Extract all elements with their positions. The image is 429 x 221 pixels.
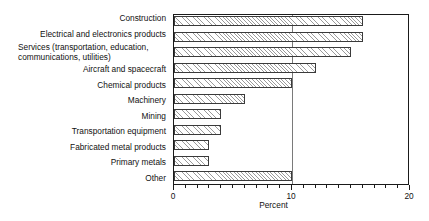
x-tick-minor: [326, 185, 327, 188]
x-tick-minor: [385, 185, 386, 188]
category-label-services: Services (transportation, education, com…: [18, 43, 168, 62]
x-tick-minor: [244, 185, 245, 188]
bar-mining: [174, 109, 221, 119]
bar-construction: [174, 16, 363, 26]
x-tick-major: [409, 185, 410, 190]
category-label-other: Other: [145, 174, 166, 184]
bar-other: [174, 171, 292, 181]
x-tick-major: [173, 185, 174, 190]
category-label-chemical-products: Chemical products: [97, 81, 166, 91]
category-label-mining: Mining: [142, 112, 166, 122]
bar-fabricated-metal-products: [174, 140, 209, 150]
bar-chemical-products: [174, 78, 292, 88]
bar-chart: Construction Electrical and electronics …: [0, 0, 429, 221]
x-tick-minor: [303, 185, 304, 188]
bar-machinery: [174, 94, 245, 104]
bar-primary-metals: [174, 156, 209, 166]
category-label-fabricated-metal-products: Fabricated metal products: [70, 143, 166, 153]
x-tick-minor: [267, 185, 268, 188]
plot-area: [173, 14, 409, 185]
category-label-transportation-equipment: Transportation equipment: [72, 127, 166, 137]
category-label-electrical-and-electronics-products: Electrical and electronics products: [40, 30, 166, 40]
category-label-primary-metals: Primary metals: [111, 158, 166, 168]
bar-transportation-equipment: [174, 125, 221, 135]
x-tick-minor: [232, 185, 233, 188]
bar-aircraft-and-spacecraft: [174, 63, 316, 73]
bar-electrical-and-electronics-products: [174, 32, 363, 42]
category-label-construction: Construction: [119, 14, 166, 24]
bar-services: [174, 47, 351, 57]
x-axis-title-text: Percent: [259, 200, 288, 210]
x-tick-minor: [350, 185, 351, 188]
x-tick-minor: [279, 185, 280, 188]
x-axis-title: Percent: [0, 200, 429, 210]
x-tick-minor: [397, 185, 398, 188]
x-tick-minor: [208, 185, 209, 188]
x-tick-minor: [362, 185, 363, 188]
category-label-services-line2: communications, utilities): [18, 52, 111, 62]
category-label-aircraft-and-spacecraft: Aircraft and spacecraft: [83, 65, 166, 75]
x-tick-minor: [197, 185, 198, 188]
x-axis: 01020: [173, 185, 409, 186]
category-axis-labels: Construction Electrical and electronics …: [0, 14, 170, 185]
x-tick-minor: [256, 185, 257, 188]
x-tick-minor: [220, 185, 221, 188]
category-label-machinery: Machinery: [128, 96, 166, 106]
x-tick-minor: [185, 185, 186, 188]
x-tick-minor: [338, 185, 339, 188]
x-tick-minor: [374, 185, 375, 188]
x-tick-major: [291, 185, 292, 190]
category-label-services-line1: Services (transportation, education,: [18, 42, 149, 52]
x-tick-minor: [315, 185, 316, 188]
